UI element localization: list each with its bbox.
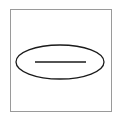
ellipse-minus-icon: [0, 0, 120, 118]
